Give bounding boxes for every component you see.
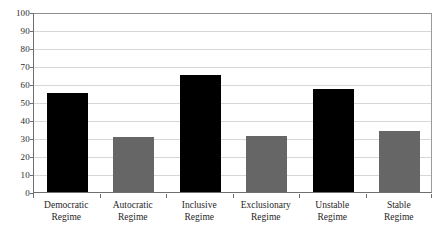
bar xyxy=(379,131,420,192)
x-axis-category-label: ExclusionaryRegime xyxy=(233,199,300,223)
bars-group xyxy=(34,13,431,192)
x-tick-mark xyxy=(366,194,367,198)
bar xyxy=(47,93,88,192)
x-tick-mark xyxy=(166,194,167,198)
y-tick-label: 100 xyxy=(4,9,30,18)
x-axis-category-label-line2: Regime xyxy=(233,211,300,223)
y-tick-label: 30 xyxy=(4,135,30,144)
x-axis-category-label: InclusiveRegime xyxy=(166,199,233,223)
bar-chart: 0102030405060708090100 DemocraticRegimeA… xyxy=(0,0,448,231)
x-axis-labels: DemocraticRegimeAutocraticRegimeInclusiv… xyxy=(33,199,432,231)
y-tick-label: 90 xyxy=(4,27,30,36)
y-axis: 0102030405060708090100 xyxy=(0,0,30,200)
x-axis-category-label-line1: Exclusionary xyxy=(241,200,291,210)
x-tick-mark xyxy=(299,194,300,198)
y-tick-label: 10 xyxy=(4,171,30,180)
y-tick-label: 70 xyxy=(4,63,30,72)
y-tick-label: 20 xyxy=(4,153,30,162)
x-axis-category-label-line1: Unstable xyxy=(315,200,349,210)
x-axis-category-label-line2: Regime xyxy=(299,211,366,223)
x-axis-category-label-line2: Regime xyxy=(100,211,167,223)
x-tick-mark xyxy=(33,194,34,198)
y-tick-label: 0 xyxy=(4,189,30,198)
bar xyxy=(313,89,354,193)
x-tick-mark xyxy=(233,194,234,198)
x-axis-category-label-line2: Regime xyxy=(366,211,433,223)
x-axis-category-label: AutocraticRegime xyxy=(100,199,167,223)
x-axis-category-label-line1: Democratic xyxy=(44,200,88,210)
y-tick-label: 50 xyxy=(4,99,30,108)
plot-area xyxy=(33,13,432,193)
x-axis-category-label-line1: Inclusive xyxy=(182,200,217,210)
bar xyxy=(180,75,221,192)
y-tick-label: 80 xyxy=(4,45,30,54)
x-axis-category-label: UnstableRegime xyxy=(299,199,366,223)
y-tick-label: 40 xyxy=(4,117,30,126)
x-axis-category-label-line1: Stable xyxy=(387,200,411,210)
x-axis-category-label: DemocraticRegime xyxy=(33,199,100,223)
bar xyxy=(246,136,287,192)
x-axis-category-label-line1: Autocratic xyxy=(113,200,153,210)
x-axis-category-label-line2: Regime xyxy=(33,211,100,223)
x-tick-mark xyxy=(431,194,432,198)
bar xyxy=(113,137,154,192)
x-tick-mark xyxy=(100,194,101,198)
y-tick-label: 60 xyxy=(4,81,30,90)
x-axis-category-label: StableRegime xyxy=(366,199,433,223)
x-axis-category-label-line2: Regime xyxy=(166,211,233,223)
